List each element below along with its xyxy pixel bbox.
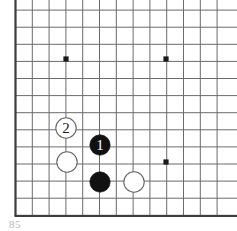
- go-board-grid[interactable]: 21: [0, 0, 237, 231]
- go-stone-white[interactable]: [57, 152, 77, 172]
- figure-caption-partial: 85: [9, 219, 69, 231]
- star-point-upper-left-icon: [63, 56, 68, 61]
- go-stone-black[interactable]: [90, 172, 110, 192]
- stone-move-number-label: 1: [96, 137, 104, 153]
- star-point-upper-right-icon: [163, 56, 168, 61]
- go-stone-white[interactable]: [124, 172, 144, 192]
- star-point-lower-right-icon: [163, 159, 168, 164]
- stone-move-number-label: 2: [62, 120, 70, 136]
- go-board-figure: 21 85: [0, 0, 237, 231]
